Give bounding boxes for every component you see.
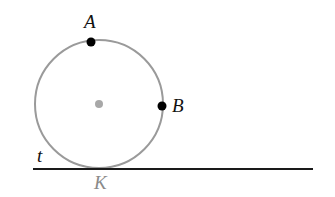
point-b [158,102,167,111]
label-k: K [93,172,108,193]
label-t: t [37,145,43,166]
label-b: B [172,95,184,116]
point-a [87,38,96,47]
label-a: A [82,11,96,32]
diagram-canvas: A B t K [0,0,335,197]
center-point [95,100,103,108]
